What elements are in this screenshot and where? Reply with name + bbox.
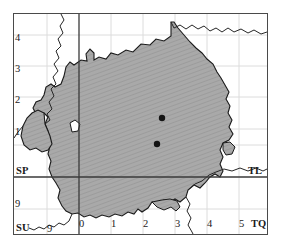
coastline-northeast — [171, 22, 267, 34]
y-tick-label-3: 3 — [15, 64, 20, 75]
grid-square-label-su-digit: 9 — [47, 224, 52, 235]
x-tick-label-4: 4 — [207, 219, 212, 230]
grid-square-label-tl: TL — [248, 166, 262, 177]
y-tick-label-2: 2 — [15, 95, 20, 106]
map-plot-frame — [13, 13, 268, 235]
x-tick-label-2: 2 — [143, 219, 148, 230]
x-tick-label-3: 3 — [175, 219, 180, 230]
distribution-map-figure: 4 3 2 1 9 0 1 2 3 4 5 SP TL SU 9 TQ — [0, 0, 281, 246]
y-tick-label-4: 4 — [15, 33, 20, 44]
map-canvas — [14, 14, 267, 234]
shaded-county-region — [21, 22, 235, 218]
grid-square-label-su: SU — [16, 223, 30, 234]
grid-square-label-sp: SP — [16, 166, 28, 177]
x-tick-label-1: 1 — [111, 219, 116, 230]
record-dot-1 — [159, 115, 165, 121]
y-tick-label-9: 9 — [15, 199, 20, 210]
grid-square-label-tq: TQ — [251, 219, 266, 230]
y-tick-label-1: 1 — [15, 127, 20, 138]
x-tick-label-0: 0 — [79, 219, 84, 230]
record-dot-2 — [154, 141, 160, 147]
x-tick-label-5: 5 — [239, 219, 244, 230]
